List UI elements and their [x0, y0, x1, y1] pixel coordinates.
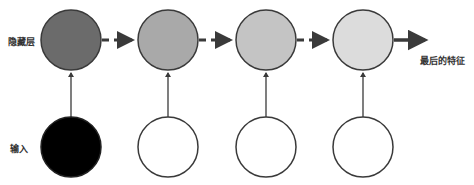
input-node-4 — [333, 117, 393, 177]
input-node-2 — [138, 117, 198, 177]
hidden-node-4 — [333, 10, 393, 70]
input-node-1 — [41, 117, 101, 177]
hidden-node-3 — [236, 10, 296, 70]
input-node-3 — [236, 117, 296, 177]
final-feature-label: 最后的特征 — [420, 54, 465, 67]
input-to-hidden-arrows — [71, 73, 363, 117]
hidden-layer-label: 隐藏层 — [8, 35, 35, 48]
hidden-node-1 — [41, 10, 101, 70]
input-nodes — [41, 117, 393, 177]
input-label: 输入 — [10, 142, 28, 155]
rnn-unrolled-diagram — [0, 0, 474, 185]
hidden-node-2 — [138, 10, 198, 70]
